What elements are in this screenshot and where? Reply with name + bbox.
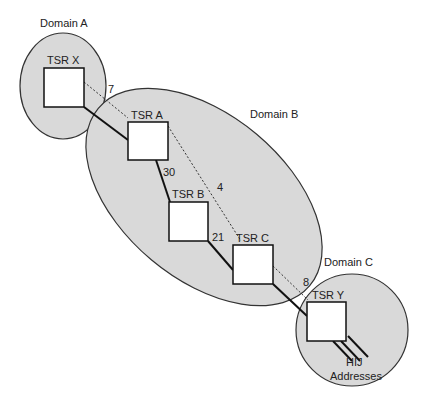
tunnel-c-y-cost: 8	[303, 276, 309, 288]
tsr-x-label: TSR X	[47, 54, 80, 66]
addresses-label-hij: HIJ	[346, 356, 363, 368]
tsr-a-label: TSR A	[131, 109, 163, 121]
network-diagram: Domain A Domain B Domain C TSR X TSR A T…	[0, 0, 426, 404]
addresses-label-text: Addresses	[330, 370, 382, 382]
node-tsr-a[interactable]	[128, 122, 168, 160]
domain-b-label: Domain B	[250, 108, 298, 120]
node-tsr-y[interactable]	[307, 302, 346, 341]
domain-c-label: Domain C	[324, 256, 373, 268]
tsr-y-label: TSR Y	[312, 289, 345, 301]
tunnel-x-a-cost: 7	[108, 83, 114, 95]
link-a-b-cost: 30	[163, 166, 175, 178]
node-tsr-b[interactable]	[169, 202, 208, 241]
node-tsr-x[interactable]	[44, 68, 84, 107]
tsr-c-label: TSR C	[236, 232, 269, 244]
tsr-b-label: TSR B	[172, 188, 204, 200]
link-b-c-cost: 21	[212, 231, 224, 243]
node-tsr-c[interactable]	[233, 245, 273, 284]
tunnel-a-c-cost: 4	[217, 181, 223, 193]
domain-a-label: Domain A	[40, 17, 88, 29]
